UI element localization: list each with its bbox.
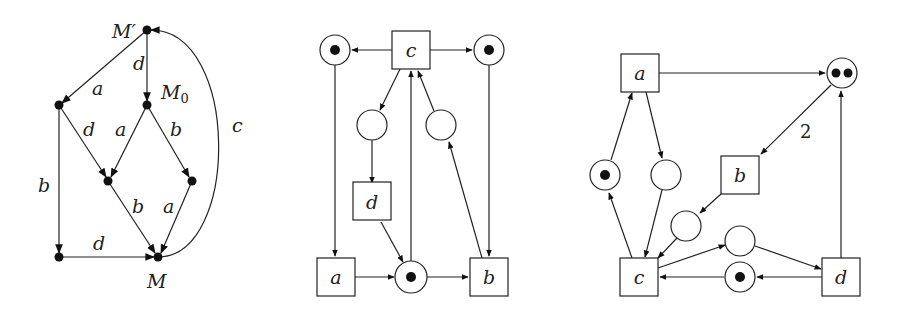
reachability-graph: M′ M0 M a d d a b b b a d c xyxy=(38,20,243,292)
edge-label-b: b xyxy=(38,174,50,196)
place-q4 xyxy=(671,211,701,241)
petri-net-figure: M′ M0 M a d d a b b b a d c xyxy=(0,0,897,315)
label-m: M xyxy=(146,270,167,292)
edge-label-b: b xyxy=(170,118,182,140)
edge-m0-to-center xyxy=(111,105,147,177)
edge-center-to-m xyxy=(108,181,155,253)
transition-label-c: c xyxy=(634,266,645,288)
token-icon xyxy=(406,272,416,282)
edge-label-d: d xyxy=(133,52,145,74)
edge-m0-to-right xyxy=(147,105,189,177)
arc-p4-to-c xyxy=(418,71,434,111)
petri-net-2: 2 a b c d xyxy=(590,54,860,296)
edge-label-a: a xyxy=(92,77,103,99)
edge-m-to-mprime-arc xyxy=(151,30,219,257)
token-icon xyxy=(735,272,745,282)
arc-d-to-p5 xyxy=(381,222,403,262)
state-m0 xyxy=(143,101,152,110)
arc-b-to-q4 xyxy=(700,194,721,213)
edge-label-c: c xyxy=(232,114,243,136)
edge-label-a: a xyxy=(115,118,126,140)
label-m0: M0 xyxy=(160,81,189,106)
transition-label-c: c xyxy=(406,39,417,61)
edge-label-d: d xyxy=(93,232,105,254)
token-icon xyxy=(330,45,340,55)
arc-c-to-p3 xyxy=(380,69,400,110)
state-right xyxy=(188,177,197,186)
transition-label-a: a xyxy=(330,266,341,288)
arc-a-to-q3 xyxy=(646,92,662,158)
place-p4 xyxy=(426,110,456,140)
transition-label-b: b xyxy=(734,164,746,186)
transition-label-b: b xyxy=(483,266,495,288)
arc-q1-to-b xyxy=(761,85,831,154)
place-q3 xyxy=(651,160,681,190)
arc-weight-label: 2 xyxy=(800,121,811,142)
arc-q5-to-d xyxy=(755,246,821,269)
state-m xyxy=(154,253,163,262)
edge-left-to-center xyxy=(59,105,106,177)
token-icon xyxy=(484,45,494,55)
edge-label-d: d xyxy=(83,118,95,140)
state-center xyxy=(104,177,113,186)
edge-label-a: a xyxy=(163,195,174,217)
place-q5 xyxy=(725,226,755,256)
arc-c-to-q5 xyxy=(658,245,725,268)
state-m-prime xyxy=(143,26,152,35)
edge-right-to-m xyxy=(161,181,192,253)
state-left xyxy=(55,101,64,110)
petri-net-1: c d a b xyxy=(317,31,508,296)
edge-label-b: b xyxy=(132,195,144,217)
token-icon xyxy=(832,69,841,78)
arc-b-to-p4 xyxy=(449,142,482,258)
transition-label-a: a xyxy=(634,62,645,84)
transition-label-d: d xyxy=(835,266,847,288)
token-icon xyxy=(844,69,853,78)
arc-q2-to-a xyxy=(611,93,632,160)
arc-q4-to-c xyxy=(658,238,677,258)
state-bottom-left xyxy=(55,253,64,262)
transition-label-d: d xyxy=(366,191,378,213)
arc-q3-to-c xyxy=(645,190,662,257)
label-m-prime: M′ xyxy=(111,20,136,42)
place-p3 xyxy=(357,110,387,140)
arc-c-to-q2 xyxy=(609,193,632,258)
token-icon xyxy=(600,170,610,180)
